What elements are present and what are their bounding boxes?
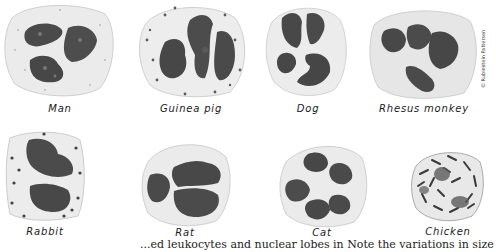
label-dog: Dog — [297, 103, 320, 114]
cell-panel-dog — [262, 0, 350, 100]
cell-panel-guinea-pig — [135, 0, 250, 100]
neutrophil-cat-illustration — [276, 140, 370, 230]
label-man: Man — [48, 103, 72, 114]
label-rat: Rat — [175, 227, 194, 238]
label-guinea-pig: Guinea pig — [160, 103, 222, 114]
label-cat: Cat — [312, 227, 331, 238]
neutrophil-dog-illustration — [262, 0, 350, 100]
artist-credit: © Rubinstein Pattersen — [480, 30, 486, 88]
figure-caption: ...ed leukocytes and nuclear lobes in No… — [0, 238, 496, 252]
label-rabbit: Rabbit — [26, 226, 63, 237]
neutrophil-man-illustration — [0, 0, 120, 100]
neutrophil-rabbit-illustration — [4, 128, 86, 223]
cell-panel-rhesus-monkey — [366, 5, 478, 100]
cell-panel-chicken — [408, 146, 486, 224]
neutrophil-rat-illustration — [138, 137, 234, 227]
label-rhesus-monkey: Rhesus monkey — [379, 103, 469, 114]
neutrophil-guinea-pig-illustration — [135, 0, 250, 100]
cell-panel-rabbit — [4, 128, 86, 223]
cell-panel-man — [0, 0, 120, 100]
cell-panel-cat — [276, 140, 370, 230]
label-chicken: Chicken — [425, 226, 470, 237]
neutrophil-rhesus-monkey-illustration — [366, 5, 478, 100]
heterophil-chicken-illustration — [408, 146, 486, 224]
cell-panel-rat — [138, 137, 234, 227]
